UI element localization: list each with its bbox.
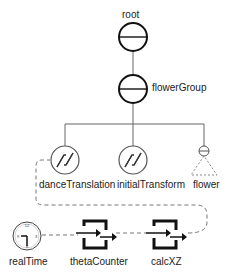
node-label-flowergroup: flowerGroup bbox=[152, 82, 206, 94]
node-label-dancetranslation: danceTranslation bbox=[39, 179, 115, 191]
scene-graph-diagram: 12 3 6 9 bbox=[0, 0, 225, 272]
transform-icon-initialtransform bbox=[119, 146, 147, 174]
node-label-root: root bbox=[122, 9, 139, 21]
node-label-calcxz: calcXZ bbox=[151, 256, 182, 268]
svg-text:12: 12 bbox=[25, 223, 30, 228]
engine-icon-thetacounter bbox=[76, 221, 117, 248]
node-label-realtime: realTime bbox=[9, 256, 48, 268]
engine-icon-calcxz bbox=[146, 221, 187, 248]
group-icon-root bbox=[119, 23, 147, 51]
node-label-initialtransform: initialTransform bbox=[117, 179, 185, 191]
group-icon-flowergroup bbox=[119, 75, 147, 103]
clock-icon-realtime: 12 3 6 9 bbox=[13, 222, 41, 250]
separator-icon-flower bbox=[199, 146, 209, 156]
node-label-flower: flower bbox=[193, 179, 220, 191]
subgraph-triangle-icon bbox=[191, 156, 217, 175]
node-label-thetacounter: thetaCounter bbox=[70, 256, 128, 268]
transform-icon-dancetranslation bbox=[51, 146, 79, 174]
